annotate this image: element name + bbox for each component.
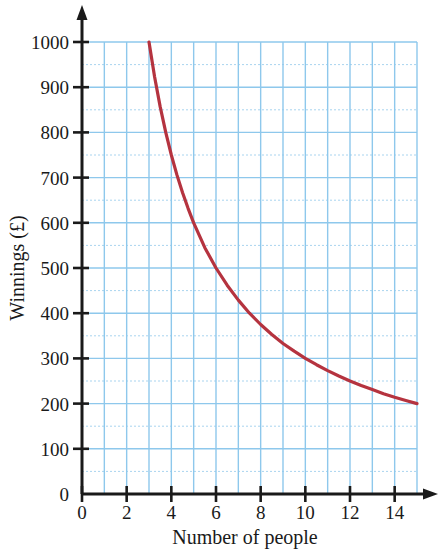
chart-container: 01002003004005006007008009001000 0246810…: [0, 0, 441, 551]
x-tick-label: 12: [341, 502, 360, 523]
x-tick-label: 4: [167, 502, 177, 523]
y-tick-label: 300: [41, 348, 70, 369]
y-tick-label: 1000: [31, 32, 69, 53]
x-tick-label: 8: [256, 502, 266, 523]
y-tick-label: 700: [41, 168, 70, 189]
x-tick-label: 14: [385, 502, 405, 523]
y-tick-label: 600: [41, 213, 70, 234]
y-tick-label: 200: [41, 394, 70, 415]
y-axis-title: Winnings (£): [6, 215, 29, 320]
x-tick-label: 0: [77, 502, 87, 523]
x-axis-title: Number of people: [172, 526, 318, 549]
x-tick-label: 2: [122, 502, 132, 523]
x-tick-label: 6: [211, 502, 221, 523]
y-tick-label: 100: [41, 439, 70, 460]
y-tick-label: 0: [60, 484, 70, 505]
x-tick-label: 10: [296, 502, 315, 523]
y-tick-label: 500: [41, 258, 70, 279]
y-tick-label: 400: [41, 303, 70, 324]
y-tick-label: 800: [41, 122, 70, 143]
y-tick-label: 900: [41, 77, 70, 98]
inverse-proportion-graph: 01002003004005006007008009001000 0246810…: [0, 0, 441, 551]
